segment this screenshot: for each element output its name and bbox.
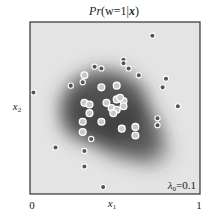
point-w0-4 — [136, 73, 141, 78]
point-w1-14 — [79, 129, 86, 136]
point-w0-13 — [155, 116, 160, 121]
x-axis-label: x1 — [107, 197, 117, 211]
point-w0-12 — [175, 104, 180, 109]
y-axis-label: x2 — [12, 100, 22, 114]
chart-title: Pr(w=1|x) — [88, 4, 139, 18]
point-w1-19 — [117, 94, 124, 101]
point-w1-15 — [118, 125, 125, 132]
point-w0-2 — [121, 61, 126, 66]
point-w0-16 — [53, 145, 58, 150]
point-w0-6 — [160, 85, 165, 90]
plot-area — [30, 22, 200, 194]
point-w1-12 — [79, 118, 86, 125]
figure: Pr(w=1|x) λ0=0.1 0 1 x1 x2 — [0, 0, 214, 217]
point-w0-14 — [155, 123, 160, 128]
point-w1-10 — [120, 103, 127, 110]
point-w1-2 — [113, 82, 120, 89]
point-w0-19 — [101, 185, 106, 190]
x-tick-1: 1 — [196, 199, 202, 211]
x-tick-0: 0 — [29, 199, 35, 211]
point-w0-10 — [68, 83, 73, 88]
point-w1-1 — [98, 84, 105, 91]
point-w0-8 — [99, 66, 104, 71]
lambda-annotation: λ0=0.1 — [167, 179, 196, 193]
point-w1-13 — [98, 118, 105, 125]
point-w0-15 — [89, 136, 94, 141]
point-w0-5 — [163, 76, 168, 81]
point-w0-17 — [82, 148, 87, 153]
point-w0-0 — [150, 33, 155, 38]
point-w0-9 — [80, 80, 85, 85]
point-w1-4 — [86, 101, 93, 108]
point-w1-17 — [132, 132, 139, 139]
point-w0-11 — [31, 90, 36, 95]
point-w1-18 — [110, 110, 117, 117]
point-w0-7 — [92, 64, 97, 69]
point-w0-18 — [82, 164, 87, 169]
point-w1-16 — [132, 124, 139, 131]
point-w1-11 — [86, 110, 93, 117]
point-w0-3 — [126, 66, 131, 71]
point-w1-0 — [81, 72, 88, 79]
